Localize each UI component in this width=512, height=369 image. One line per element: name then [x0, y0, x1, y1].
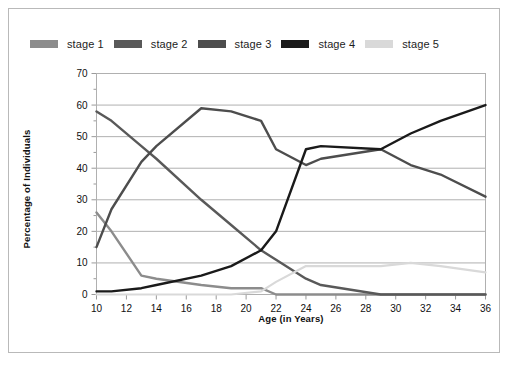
x-tick-labels: 1012141618202224262830323436 — [91, 303, 492, 314]
x-tick-label-28: 28 — [360, 303, 372, 314]
y-tick-label-20: 20 — [76, 226, 88, 237]
x-tick-label-32: 32 — [420, 303, 432, 314]
x-tick-label-36: 36 — [480, 303, 492, 314]
plot-area-wrapper: 010203040506070 101214161820222426283032… — [0, 0, 512, 369]
y-tick-labels: 010203040506070 — [76, 68, 88, 300]
x-tick-label-30: 30 — [390, 303, 402, 314]
x-tick-label-18: 18 — [211, 303, 223, 314]
x-tick-label-10: 10 — [91, 303, 103, 314]
x-tick-label-20: 20 — [241, 303, 253, 314]
x-tick-label-26: 26 — [330, 303, 342, 314]
gridlines — [97, 74, 486, 295]
y-tick-label-30: 30 — [76, 194, 88, 205]
y-tick-label-0: 0 — [82, 289, 88, 300]
chart-svg: 010203040506070 101214161820222426283032… — [0, 0, 512, 369]
chart-figure: stage 1 stage 2 stage 3 stage 4 stage 5 … — [0, 0, 512, 369]
x-tick-label-12: 12 — [121, 303, 133, 314]
y-tick-label-10: 10 — [76, 257, 88, 268]
series-line-stage-2 — [97, 111, 486, 294]
y-tick-label-50: 50 — [76, 131, 88, 142]
x-tick-label-22: 22 — [270, 303, 282, 314]
plot-border — [97, 74, 486, 295]
y-tick-label-70: 70 — [76, 68, 88, 79]
x-tick-label-14: 14 — [151, 303, 163, 314]
series-line-stage-3 — [97, 108, 486, 247]
series-line-stage-1 — [97, 212, 486, 294]
y-tick-label-60: 60 — [76, 100, 88, 111]
x-tick-label-16: 16 — [181, 303, 193, 314]
x-tick-label-34: 34 — [450, 303, 462, 314]
y-tick-label-40: 40 — [76, 163, 88, 174]
x-tick-label-24: 24 — [300, 303, 312, 314]
